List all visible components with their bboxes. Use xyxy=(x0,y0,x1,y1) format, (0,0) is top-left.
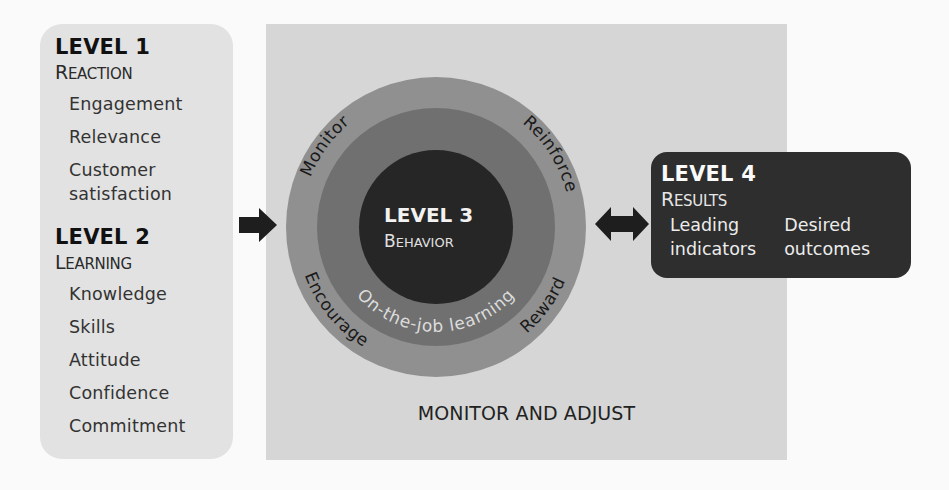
level-4-box: LEVEL 4 RESULTS Leading indicators Desir… xyxy=(651,152,911,278)
inner-circle xyxy=(359,150,513,304)
level-4-title: LEVEL 4 xyxy=(661,161,911,187)
level-4-col-leading-indicators: Leading indicators xyxy=(670,213,756,261)
level-4-subtitle: RESULTS xyxy=(661,189,911,211)
level-3-title: LEVEL 3 xyxy=(384,203,473,227)
level-4-col-desired-outcomes: Desired outcomes xyxy=(784,213,870,261)
double-arrow-icon xyxy=(595,207,649,241)
level-4-columns: Leading indicators Desired outcomes xyxy=(670,213,911,261)
